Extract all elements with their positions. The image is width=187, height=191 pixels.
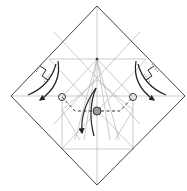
right-fold-arrow-back: [138, 64, 166, 95]
top-point: [96, 58, 99, 61]
crease-lines: [11, 6, 185, 185]
right-fold-arrow: [135, 61, 154, 100]
center-reference-point: [93, 107, 101, 115]
left-fold-arrow-back: [28, 64, 56, 95]
paper-outline: [11, 6, 185, 185]
origami-diagram: [0, 0, 187, 191]
left-fold-arrow: [40, 61, 59, 100]
left-pleat-symbol: [36, 64, 50, 82]
